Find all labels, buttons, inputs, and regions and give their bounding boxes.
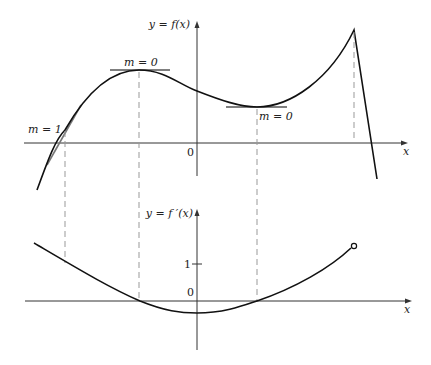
bottom-x-axis bbox=[25, 299, 412, 304]
slope-one-label: m = 1 bbox=[28, 123, 62, 136]
bottom-origin-label: 0 bbox=[187, 286, 194, 299]
dashed-guides bbox=[65, 32, 354, 301]
function-curve bbox=[37, 30, 377, 190]
tick-one-label: 1 bbox=[184, 258, 191, 271]
top-x-axis-label: x bbox=[403, 145, 410, 158]
derivative-curve bbox=[34, 243, 351, 313]
top-x-axis bbox=[24, 141, 408, 146]
open-endpoint bbox=[351, 243, 356, 248]
bottom-y-axis-label: y = f ′(x) bbox=[145, 207, 193, 220]
derivative-diagram: y = f(x) x 0 m = 1 m = 0 m = 0 y = f ′(x… bbox=[0, 0, 431, 365]
slope-zero-min-label: m = 0 bbox=[259, 110, 293, 123]
bottom-y-axis bbox=[195, 209, 200, 350]
top-y-axis bbox=[195, 21, 200, 176]
slope-zero-max-label: m = 0 bbox=[124, 56, 158, 69]
top-y-axis-label: y = f(x) bbox=[148, 18, 190, 31]
bottom-x-axis-label: x bbox=[404, 303, 411, 316]
top-origin-label: 0 bbox=[187, 146, 194, 159]
